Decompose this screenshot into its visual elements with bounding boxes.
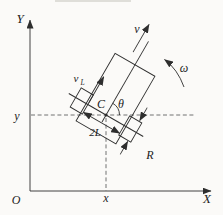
y-axis-label: Y: [16, 11, 25, 26]
left-wheel-velocity-subscript: L: [79, 78, 84, 87]
wheel-radius-label: R: [145, 148, 154, 162]
wheel-track-label: 2L: [89, 126, 101, 138]
robot-kinematics-figure: Y X O y x v ω v L C θ 2L R: [0, 0, 223, 215]
y-coordinate-label: y: [13, 109, 20, 123]
left-wheel-velocity-label: v: [74, 72, 79, 84]
wheel-radius-dimension-upper-arrow: [140, 108, 148, 121]
center-point-label: C: [97, 97, 106, 111]
x-axis-label: X: [202, 191, 212, 206]
origin-label: O: [12, 193, 21, 207]
velocity-label: v: [134, 22, 140, 36]
heading-angle-label: θ: [118, 97, 124, 111]
heading-axis-line: [102, 41, 149, 122]
wheel-radius-dimension-lower-arrow: [120, 141, 128, 154]
kinematics-diagram-canvas: Y X O y x v ω v L C θ 2L R: [0, 0, 223, 215]
center-point-dot: [105, 114, 108, 117]
x-coordinate-label: x: [102, 191, 109, 205]
scan-artifact: [55, 0, 131, 2]
angular-velocity-label: ω: [180, 61, 188, 75]
